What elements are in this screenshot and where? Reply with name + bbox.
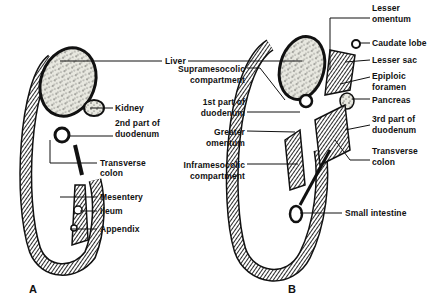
label-inframesocolic-line2: compartment <box>190 171 245 181</box>
label-transverse-colon-a-line1: Transverse <box>100 158 146 168</box>
label-lesser-omentum-line1: Lesser <box>372 3 400 13</box>
label-transverse-colon-b-line2: colon <box>372 157 395 167</box>
label-lesser-omentum-line2: omentum <box>372 14 411 24</box>
label-supramesocolic-line2: compartment <box>190 75 245 85</box>
label-small-intestine: Small intestine <box>345 208 407 218</box>
panel-letter-b: B <box>288 283 296 295</box>
label-transverse-colon-a-line2: colon <box>100 168 123 178</box>
label-supramesocolic-line1: Supramesocolic <box>178 64 245 74</box>
label-greater-omentum-line2: omentum <box>206 138 245 148</box>
label-1st-duodenum-line2: duodenum <box>201 108 245 118</box>
label-pancreas: Pancreas <box>372 95 411 105</box>
label-inframesocolic-line1: Inframesocolic <box>184 160 245 170</box>
label-2nd-duodenum-line2: duodenum <box>115 129 159 139</box>
panel-a-drawing <box>26 40 106 270</box>
label-caudate-lobe: Caudate lobe <box>372 38 427 48</box>
panel-letter-a: A <box>29 283 37 295</box>
label-2nd-duodenum-line1: 2nd part of <box>115 118 160 128</box>
label-kidney: Kidney <box>115 103 144 113</box>
label-3rd-duodenum-line1: 3rd part of <box>372 114 415 124</box>
label-epiploic-foramen-line2: foramen <box>372 82 406 92</box>
label-lesser-sac: Lesser sac <box>372 55 417 65</box>
label-epiploic-foramen-line1: Epiploic <box>372 71 406 81</box>
label-mesentery: Mesentery <box>100 192 143 202</box>
label-appendix: Appendix <box>100 224 140 234</box>
label-1st-duodenum-line1: 1st part of <box>203 97 245 107</box>
label-transverse-colon-b-line1: Transverse <box>372 146 418 156</box>
label-greater-omentum-line1: Greater <box>214 127 245 137</box>
label-3rd-duodenum-line2: duodenum <box>372 125 416 135</box>
label-ileum: Ileum <box>100 206 123 216</box>
